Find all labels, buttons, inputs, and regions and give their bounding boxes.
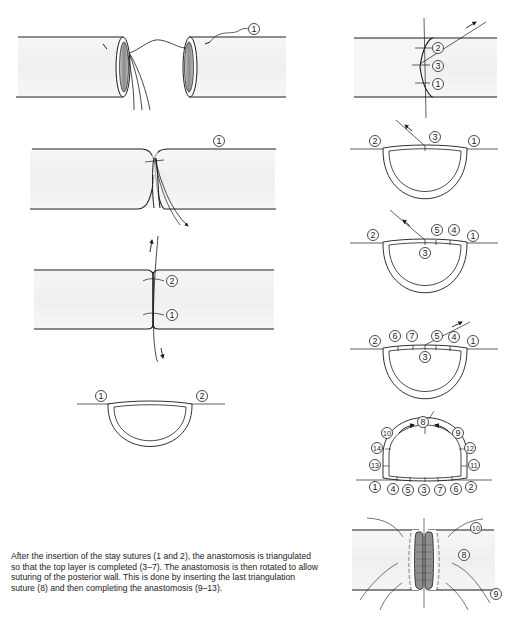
panel-left-3-two-stay-sutures: 2 1 (34, 236, 274, 362)
suture-label: 2 (468, 482, 473, 492)
anastomosis-illustration: 1 1 2 1 1 (0, 0, 520, 622)
suture-label: 1 (435, 79, 440, 89)
suture-label: 14 (373, 445, 381, 452)
suture-label: 9 (493, 589, 498, 599)
suture-label: 9 (455, 428, 460, 438)
suture-label: 5 (434, 331, 439, 341)
suture-label: 7 (409, 331, 414, 341)
panel-right-1-triangulation-suture: 2 3 1 (354, 18, 497, 118)
suture-label: 1 (470, 231, 475, 241)
suture-label: 1 (372, 482, 377, 492)
suture-label: 6 (392, 331, 397, 341)
figure-caption: After the insertion of the stay sutures … (11, 551, 321, 593)
panel-right-3-sutures-4-5: 2 5 4 1 3 (350, 210, 498, 293)
suture-label: 1 (169, 310, 174, 320)
panel-right-2-cross-section-3: 2 3 1 (350, 120, 498, 199)
suture-label: 2 (372, 136, 377, 146)
suture-label: 2 (199, 391, 204, 401)
suture-label: 3 (435, 61, 440, 71)
suture-label: 4 (451, 332, 456, 342)
suture-label: 1 (470, 336, 475, 346)
suture-label: 8 (461, 550, 466, 560)
suture-label: 3 (432, 132, 437, 142)
suture-label: 10 (472, 525, 480, 532)
panel-right-4-top-layer-complete: 2 6 7 5 4 1 3 (350, 322, 498, 399)
suture-label: 5 (405, 485, 410, 495)
suture-label: 10 (383, 430, 391, 437)
suture-label: 7 (437, 485, 442, 495)
suture-label: 8 (420, 417, 425, 427)
suture-label: 3 (422, 248, 427, 258)
panel-left-1-vessel-ends: 1 (16, 24, 286, 111)
suture-label: 3 (422, 352, 427, 362)
suture-label: 11 (470, 462, 477, 469)
panel-right-5-posterior-wall: 8 10 9 14 12 13 11 1 4 5 3 7 6 2 (356, 411, 492, 496)
suture-label: 1 (251, 24, 256, 34)
suture-label: 3 (421, 485, 426, 495)
suture-label: 2 (435, 43, 440, 53)
panel-left-2-first-stay-suture: 1 (30, 136, 276, 227)
suture-label: 1 (98, 391, 103, 401)
suture-label: 4 (390, 484, 395, 494)
panel-left-4-cross-section: 1 2 (77, 391, 225, 447)
suture-label: 4 (451, 225, 456, 235)
suture-label: 2 (169, 276, 174, 286)
suture-label: 2 (372, 336, 377, 346)
suture-label: 1 (471, 136, 476, 146)
suture-label: 2 (370, 230, 375, 240)
suture-label: 12 (466, 445, 474, 452)
suture-label: 5 (434, 225, 439, 235)
suture-label: 6 (453, 484, 458, 494)
panel-right-6-completed-anastomosis: 10 8 9 (352, 518, 502, 610)
suture-label: 13 (371, 462, 379, 469)
suture-label: 1 (216, 136, 221, 146)
